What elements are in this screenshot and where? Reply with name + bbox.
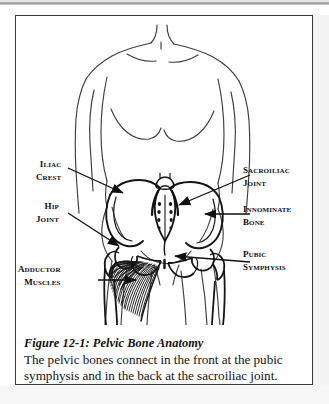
label-sacroiliac-joint-line1: Sacroiliac [243, 163, 290, 176]
label-adductor-muscles-line2: Muscles [18, 275, 61, 288]
label-innominate-bone-line1: Innominate [243, 202, 291, 215]
label-sacroiliac-joint-line2: Joint [243, 176, 290, 189]
label-pubic-symphysis-line2: Symphysis [243, 260, 286, 273]
label-hip-joint-line1: Hip [36, 199, 59, 212]
figure-caption-body-line2: symphysis and in the back at the sacroil… [24, 368, 306, 384]
label-hip-joint: Hip Joint [36, 199, 59, 225]
label-adductor-muscles: Adductor Muscles [18, 262, 61, 288]
label-pubic-symphysis: Pubic Symphysis [243, 247, 286, 273]
label-innominate-bone: Innominate Bone [243, 202, 291, 228]
figure-caption-title: Figure 12-1: Pelvic Bone Anatomy [24, 336, 306, 351]
figure-page: Iliac Crest Hip Joint Adductor Muscles S… [0, 0, 329, 404]
scan-artifact-bar [0, 2, 329, 5]
figure-caption: Figure 12-1: Pelvic Bone Anatomy The pel… [24, 336, 306, 384]
label-iliac-crest: Iliac Crest [36, 157, 61, 183]
label-iliac-crest-line2: Crest [36, 170, 61, 183]
figure-caption-body-line1: The pelvic bones connect in the front at… [24, 352, 306, 368]
label-innominate-bone-line2: Bone [243, 215, 291, 228]
page-shade-right [313, 15, 329, 404]
label-pubic-symphysis-line1: Pubic [243, 247, 286, 260]
label-sacroiliac-joint: Sacroiliac Joint [243, 163, 290, 189]
label-adductor-muscles-line1: Adductor [18, 262, 61, 275]
label-hip-joint-line2: Joint [36, 212, 59, 225]
page-shade-bottom [0, 386, 329, 404]
label-iliac-crest-line1: Iliac [36, 157, 61, 170]
